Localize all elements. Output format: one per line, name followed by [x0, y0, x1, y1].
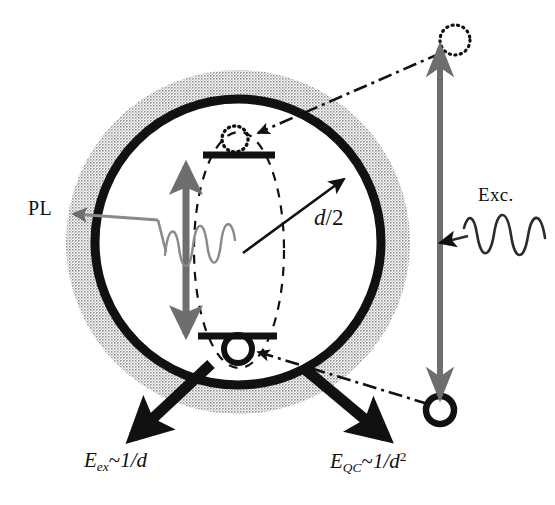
exciton-energy-label: Eex~1/d — [84, 450, 147, 473]
confinement-energy-exponent: 2 — [400, 449, 407, 464]
confinement-energy-base: E — [330, 449, 343, 473]
exciton-energy-subscript: ex — [97, 459, 109, 474]
figure-root: PL Exc. d/2 Eex~1/d EQC~1/d2 — [0, 0, 555, 505]
quantum-dot-halo — [0, 0, 555, 505]
radius-symbol: d — [314, 205, 326, 230]
radius-label: d/2 — [314, 206, 343, 229]
radius-divisor: /2 — [326, 205, 344, 230]
confinement-energy-label: EQC~1/d2 — [330, 450, 406, 474]
pl-label: PL — [28, 198, 52, 218]
confinement-energy-subscript: QC — [343, 460, 362, 475]
exciton-energy-relation: ~ — [109, 448, 120, 472]
confinement-energy-relation: ~ — [362, 449, 373, 473]
excitation-label: Exc. — [478, 185, 514, 204]
confinement-energy-expression: 1/d — [373, 449, 400, 473]
exciton-energy-base: E — [84, 448, 97, 472]
diagram-canvas — [0, 0, 555, 505]
exciton-energy-expression: 1/d — [120, 448, 147, 472]
